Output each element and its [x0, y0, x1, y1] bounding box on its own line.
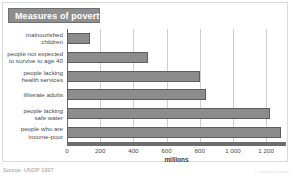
x-axis-label: millions	[67, 156, 286, 163]
bar-1	[67, 52, 148, 63]
credit-note: © cartographic design	[254, 170, 289, 174]
poverty-bar-chart-figure: Measures of poverty malnourishedchildren…	[0, 0, 293, 178]
x-tick-label-1200: 1 200	[258, 147, 273, 154]
category-axis-labels: malnourishedchildrenpeople not expectedt…	[2, 29, 65, 142]
bar-row	[67, 51, 286, 63]
x-tick-label-0: 0	[65, 147, 68, 154]
source-note: Source: UNDP 1997	[3, 167, 54, 173]
category-label-0: malnourishedchildren	[2, 31, 63, 45]
bar-0	[67, 33, 90, 44]
x-tick-label-1000: 1 000	[225, 147, 240, 154]
category-label-line: health services	[2, 76, 63, 83]
bar-row	[67, 70, 286, 82]
category-label-4: people lackingsafe water	[2, 107, 63, 121]
x-tick-label-600: 600	[161, 147, 171, 154]
category-label-line: illiterate adults	[2, 91, 63, 98]
x-axis-line	[67, 142, 286, 146]
category-label-line: people who are	[2, 125, 63, 132]
category-label-2: people lackinghealth services	[2, 69, 63, 83]
category-label-line: people lacking	[2, 107, 63, 114]
bar-4	[67, 108, 270, 119]
bar-series	[67, 29, 286, 142]
category-label-line: people lacking	[2, 69, 63, 76]
chart-title-banner: Measures of poverty	[8, 8, 100, 23]
category-label-line: to survive to age 40	[2, 57, 63, 64]
bar-5	[67, 127, 281, 138]
bar-row	[67, 108, 286, 120]
category-label-line: income-poor	[2, 133, 63, 140]
x-tick-label-200: 200	[95, 147, 105, 154]
category-label-line: malnourished	[2, 31, 63, 38]
bar-2	[67, 71, 200, 82]
bar-row	[67, 32, 286, 44]
category-label-5: people who areincome-poor	[2, 125, 63, 139]
x-tick-label-400: 400	[128, 147, 138, 154]
page-title: Measures of poverty	[15, 11, 104, 21]
category-label-line: safe water	[2, 114, 63, 121]
x-tick-label-800: 800	[195, 147, 205, 154]
plot-area	[67, 29, 286, 142]
bar-row	[67, 89, 286, 101]
category-label-line: people not expected	[2, 50, 63, 57]
bar-3	[67, 89, 206, 100]
bar-row	[67, 127, 286, 139]
category-label-line: children	[2, 38, 63, 45]
category-label-1: people not expectedto survive to age 40	[2, 50, 63, 64]
category-label-3: illiterate adults	[2, 91, 63, 98]
